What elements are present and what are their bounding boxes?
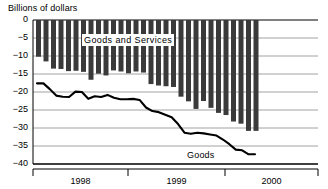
bar	[201, 20, 206, 101]
y-axis-tick-label: −20	[0, 86, 28, 96]
bar	[126, 20, 131, 73]
goods-line	[37, 83, 255, 154]
bar	[44, 20, 49, 61]
y-axis-tick-label: −30	[0, 122, 28, 132]
goods-and-services-label: Goods and Services	[82, 34, 174, 46]
bar	[59, 20, 64, 69]
bar	[104, 20, 109, 75]
bar	[164, 20, 169, 86]
bar	[51, 20, 56, 69]
goods-label: Goods	[185, 149, 217, 161]
y-axis-tick-label: −25	[0, 104, 28, 114]
x-axis-tick-label: 1999	[157, 176, 197, 186]
y-axis-tick-label: −15	[0, 68, 28, 78]
bar	[209, 20, 214, 108]
bar	[224, 20, 229, 115]
y-axis-tick-label: 0	[0, 14, 28, 24]
bar	[171, 20, 176, 87]
x-axis-tick-label: 1998	[61, 176, 101, 186]
bar	[246, 20, 251, 131]
trade-balance-chart: Billions of dollars 0−5−10−15−20−25−30−3…	[0, 0, 328, 189]
bar	[239, 20, 244, 124]
bar	[179, 20, 184, 97]
y-axis-tick-label: −40	[0, 158, 28, 168]
bar	[186, 20, 191, 101]
bar	[149, 20, 154, 84]
bar	[254, 20, 259, 131]
x-axis-tick-label: 2000	[252, 176, 292, 186]
bar	[231, 20, 236, 122]
bar	[194, 20, 199, 109]
y-axis-tick-label: −5	[0, 32, 28, 42]
y-axis-tick-label: −10	[0, 50, 28, 60]
bar	[74, 20, 79, 71]
bar	[141, 20, 146, 73]
bar	[36, 20, 41, 57]
bar	[89, 20, 94, 80]
chart-canvas	[0, 0, 328, 189]
bar	[156, 20, 161, 86]
bar	[96, 20, 101, 74]
bar	[216, 20, 221, 113]
y-axis-tick-label: −35	[0, 140, 28, 150]
bar	[66, 20, 71, 71]
